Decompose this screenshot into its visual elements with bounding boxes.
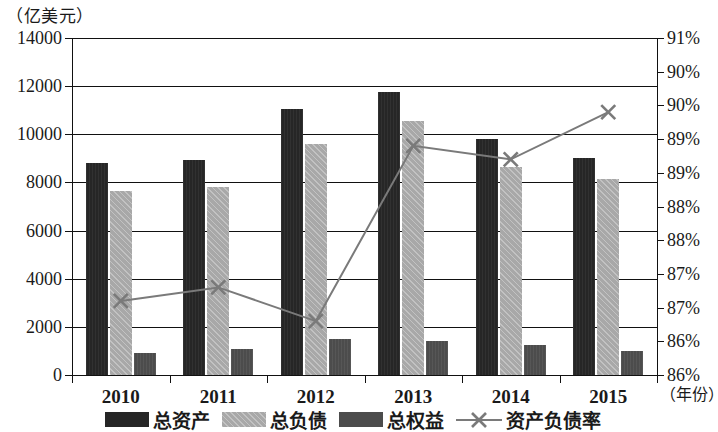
right-axis-tick	[657, 375, 664, 376]
right-axis-tick	[657, 308, 664, 309]
right-axis-tick-label: 87%	[667, 265, 715, 283]
bar-total-equity	[134, 353, 156, 375]
right-axis-tick	[657, 173, 664, 174]
legend-swatch-1	[222, 412, 266, 427]
left-axis-tick	[65, 86, 72, 87]
right-axis-tick-label: 89%	[667, 130, 715, 148]
y-axis-unit-caption: （亿美元）	[6, 2, 94, 27]
right-axis-tick-label: 88%	[667, 198, 715, 216]
bar-total-equity	[524, 345, 546, 375]
bar-total-assets	[281, 109, 303, 375]
x-axis-tick	[560, 375, 561, 383]
legend-label: 资产负债率	[506, 406, 601, 432]
right-axis-tick	[657, 274, 664, 275]
grid-line	[72, 279, 657, 280]
left-axis-tick-label: 12000	[0, 77, 62, 95]
legend-swatch-0	[105, 412, 149, 427]
left-axis-tick	[65, 279, 72, 280]
legend-item[interactable]: 总资产	[105, 406, 210, 432]
grid-line	[72, 134, 657, 135]
grid-line	[72, 182, 657, 183]
legend-label: 总负债	[270, 406, 327, 432]
x-axis-tick-label: 2011	[173, 387, 263, 406]
right-axis-tick	[657, 341, 664, 342]
grid-line	[72, 86, 657, 87]
grid-line	[72, 38, 657, 39]
x-axis-tick	[72, 375, 73, 383]
legend-item[interactable]: 总负债	[222, 406, 327, 432]
right-axis-tick-label: 88%	[667, 231, 715, 249]
legend-label: 总权益	[387, 406, 444, 432]
right-axis-tick	[657, 38, 664, 39]
right-axis-tick	[657, 240, 664, 241]
bar-total-equity	[231, 349, 253, 375]
bar-total-liabilities	[305, 144, 327, 375]
left-axis-tick	[65, 375, 72, 376]
legend-line-x-icon	[456, 412, 502, 428]
right-axis-tick	[657, 72, 664, 73]
chart-legend: 总资产总负债总权益资产负债率	[0, 406, 712, 432]
bar-total-assets	[476, 139, 498, 375]
x-axis-tick-label: 2015	[563, 387, 653, 406]
right-axis-tick	[657, 207, 664, 208]
left-axis-tick-label: 0	[0, 366, 62, 384]
grid-line	[72, 327, 657, 328]
bar-total-assets	[183, 160, 205, 375]
left-axis-tick	[65, 182, 72, 183]
bar-total-equity	[329, 339, 351, 375]
legend-item[interactable]: 总权益	[339, 406, 444, 432]
bar-total-equity	[621, 351, 643, 375]
left-axis-line	[72, 38, 73, 375]
left-axis-tick	[65, 134, 72, 135]
bar-total-liabilities	[207, 187, 229, 375]
right-axis-tick-label: 90%	[667, 96, 715, 114]
x-axis-tick	[267, 375, 268, 383]
left-axis-tick-label: 14000	[0, 29, 62, 47]
left-axis-tick-label: 4000	[0, 270, 62, 288]
right-axis-tick-label: 90%	[667, 63, 715, 81]
bar-total-equity	[426, 341, 448, 375]
bar-total-liabilities	[110, 191, 132, 375]
right-axis-tick	[657, 105, 664, 106]
right-axis-tick-label: 89%	[667, 164, 715, 182]
legend-label: 总资产	[153, 406, 210, 432]
x-axis-tick	[462, 375, 463, 383]
left-axis-tick-label: 6000	[0, 222, 62, 240]
x-axis-tick-label: 2012	[271, 387, 361, 406]
x-axis-title: （年份）	[660, 387, 718, 403]
x-axis-tick-label: 2010	[76, 387, 166, 406]
x-axis-tick-label: 2014	[466, 387, 556, 406]
plot-area	[72, 38, 657, 375]
left-axis-tick-label: 2000	[0, 318, 62, 336]
right-axis-tick	[657, 139, 664, 140]
left-axis-tick	[65, 231, 72, 232]
bar-total-assets	[86, 163, 108, 375]
x-axis-tick	[657, 375, 658, 383]
left-axis-tick-label: 8000	[0, 173, 62, 191]
bar-total-liabilities	[597, 179, 619, 375]
right-axis-tick-label: 86%	[667, 366, 715, 384]
right-axis-tick-label: 91%	[667, 29, 715, 47]
bar-total-assets	[573, 158, 595, 375]
left-axis-tick-label: 10000	[0, 125, 62, 143]
x-axis-tick-label: 2013	[368, 387, 458, 406]
grid-line	[72, 231, 657, 232]
x-axis-tick	[365, 375, 366, 383]
bar-total-liabilities	[402, 121, 424, 375]
legend-item[interactable]: 资产负债率	[456, 406, 601, 432]
right-axis-tick-label: 86%	[667, 332, 715, 350]
bar-total-assets	[378, 92, 400, 375]
right-axis-tick-label: 87%	[667, 299, 715, 317]
legend-swatch-2	[339, 412, 383, 427]
bar-total-liabilities	[500, 167, 522, 375]
x-axis-tick	[170, 375, 171, 383]
left-axis-tick	[65, 327, 72, 328]
left-axis-tick	[65, 38, 72, 39]
